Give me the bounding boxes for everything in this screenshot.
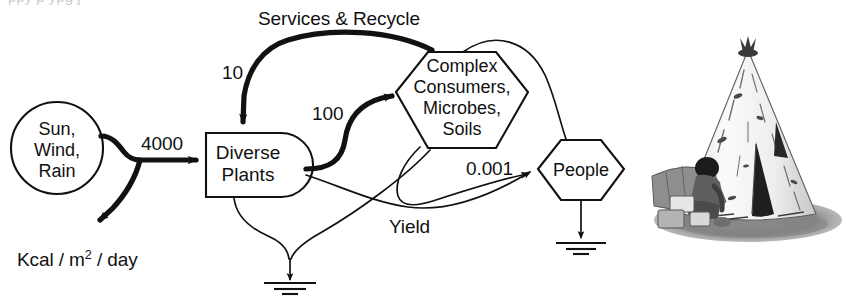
heat-sink-center xyxy=(264,283,316,294)
producer-line-2: Plants xyxy=(206,164,290,186)
label-units-exponent: 2 xyxy=(85,248,92,262)
consumer-line-4: Soils xyxy=(398,119,526,140)
hut-finial xyxy=(738,36,758,57)
people-line-1: People xyxy=(538,160,624,181)
label-four-thousand: 4000 xyxy=(141,133,183,154)
energy-source-line-1: Sun, xyxy=(19,119,95,140)
thatched-hut-photo xyxy=(648,26,844,258)
label-hundred: 100 xyxy=(312,103,343,124)
label-units-prefix: Kcal / m xyxy=(17,249,85,270)
producer-line-1: Diverse xyxy=(206,142,290,164)
energy-source-line-3: Rain xyxy=(19,161,95,182)
heat-sink-people xyxy=(556,243,606,254)
ground-object-3 xyxy=(690,212,710,226)
ground-object-4 xyxy=(713,217,731,227)
flow-plants-heat-loss xyxy=(234,198,289,259)
flow-solar-dispersal xyxy=(100,160,140,220)
energy-systems-diagram: ppy p ypg j xyxy=(0,0,847,299)
ground-object-2 xyxy=(658,210,684,228)
consumer-line-2: Consumers, xyxy=(398,77,526,98)
thatched-hut-illustration xyxy=(648,26,844,258)
consumer-line-1: Complex xyxy=(398,56,526,77)
consumer-line-3: Microbes, xyxy=(398,98,526,119)
energy-source-label: Sun, Wind, Rain xyxy=(19,119,95,182)
producer-label: Diverse Plants xyxy=(206,142,290,186)
label-services-recycle: Services & Recycle xyxy=(258,8,420,29)
people-label: People xyxy=(538,160,624,181)
label-units: Kcal / m2 / day xyxy=(17,249,138,270)
consumer-label: Complex Consumers, Microbes, Soils xyxy=(398,56,526,140)
energy-source-line-2: Wind, xyxy=(19,140,95,161)
label-point-zero-zero-one: 0.001 xyxy=(466,158,513,179)
label-yield: Yield xyxy=(389,216,430,237)
label-ten: 10 xyxy=(222,62,243,83)
label-units-suffix: / day xyxy=(92,249,138,270)
